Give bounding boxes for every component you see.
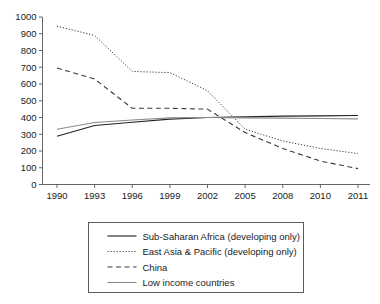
y-tick-label: 100 xyxy=(21,162,37,173)
x-tick-label: 2008 xyxy=(272,190,293,201)
y-tick-label: 700 xyxy=(21,62,37,73)
series-line-1 xyxy=(57,26,358,153)
line-chart: 01002003004005006007008009001000 1990199… xyxy=(0,0,380,304)
y-tick-label: 300 xyxy=(21,129,37,140)
legend-label-1: East Asia & Pacific (developing only) xyxy=(143,246,297,257)
legend-label-3: Low income countries xyxy=(143,277,235,288)
y-tick-label: 0 xyxy=(31,179,36,190)
y-tick-label: 400 xyxy=(21,112,37,123)
legend-label-0: Sub-Saharan Africa (developing only) xyxy=(143,231,300,242)
series-line-3 xyxy=(57,118,358,130)
legend-label-2: China xyxy=(143,262,169,273)
x-axis-tick-group: 199019931996199920022005200820102011 xyxy=(46,185,368,201)
y-tick-label: 200 xyxy=(21,145,37,156)
x-tick-label: 2002 xyxy=(197,190,218,201)
y-axis-tick-group: 01002003004005006007008009001000 xyxy=(15,11,42,190)
x-tick-label: 1999 xyxy=(159,190,180,201)
chart-container: 01002003004005006007008009001000 1990199… xyxy=(0,0,380,304)
x-tick-label: 2010 xyxy=(310,190,331,201)
y-tick-label: 500 xyxy=(21,95,37,106)
y-tick-label: 800 xyxy=(21,45,37,56)
x-tick-label: 2005 xyxy=(235,190,256,201)
x-tick-label: 1993 xyxy=(84,190,105,201)
y-tick-label: 1000 xyxy=(15,11,36,22)
x-tick-label: 1996 xyxy=(122,190,143,201)
series-group xyxy=(57,26,358,168)
x-tick-label: 1990 xyxy=(46,190,67,201)
y-tick-label: 600 xyxy=(21,78,37,89)
y-tick-label: 900 xyxy=(21,28,37,39)
x-tick-label: 2011 xyxy=(348,190,368,201)
